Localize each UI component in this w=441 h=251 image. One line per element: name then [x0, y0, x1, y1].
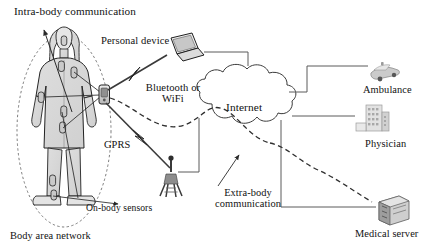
label-on-body-sensors: On-body sensors: [86, 203, 152, 213]
label-gprs: GPRS: [104, 140, 130, 151]
label-extra-body-communication: Extra-body communication: [202, 188, 294, 210]
laptop-icon: [171, 33, 204, 61]
label-intra-body-communication: Intra-body communication: [14, 6, 136, 18]
diagram-graphics: [0, 0, 441, 251]
ambulance-icon: [371, 62, 400, 81]
extra-body-leader: [218, 155, 239, 186]
label-medical-server: Medical server: [355, 229, 418, 240]
gprs-link: [106, 103, 170, 168]
body-hub-device: [99, 85, 110, 104]
label-ambulance: Ambulance: [363, 85, 412, 96]
diagram-canvas: Intra-body communication Personal device…: [0, 0, 441, 251]
label-physician: Physician: [365, 139, 406, 150]
label-personal-device: Personal device: [101, 35, 169, 46]
label-body-area-network: Body area network: [10, 231, 91, 242]
label-bluetooth-wifi: Bluetooth or WiFi: [130, 82, 216, 104]
physician-icon: [356, 105, 389, 131]
label-internet: Internet: [226, 102, 262, 114]
medical-server-icon: [379, 196, 409, 225]
